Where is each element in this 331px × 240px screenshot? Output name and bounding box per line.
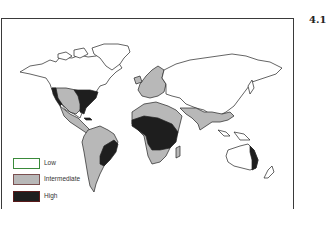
legend-label-high: High xyxy=(44,192,57,199)
legend-label-low: Low xyxy=(44,159,56,166)
legend-swatch-low xyxy=(13,158,40,169)
legend-label-intermediate: Intermediate xyxy=(44,175,80,182)
legend-swatch-high xyxy=(13,191,40,202)
legend-swatch-intermediate xyxy=(13,174,40,185)
asia-land xyxy=(162,54,282,116)
